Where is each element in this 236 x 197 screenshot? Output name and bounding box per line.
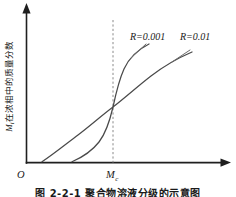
figure-container: R=0.001 R=0.01 O Mc Mi在浓相中的质量分数 图 2-2-1 … bbox=[0, 0, 236, 197]
figure-caption: 图 2-2-1 聚合物溶液分级的示意图 bbox=[0, 183, 236, 197]
plot-canvas: R=0.001 R=0.01 O Mc bbox=[0, 0, 236, 197]
x-tick-label-mc: Mc bbox=[105, 169, 119, 183]
origin-label: O bbox=[17, 169, 25, 180]
x-tick-subscript: c bbox=[115, 175, 119, 183]
curve-r-0-001 bbox=[72, 44, 149, 162]
x-axis-arrowhead bbox=[221, 158, 232, 166]
curve-r-0-01 bbox=[42, 52, 192, 162]
y-axis-arrowhead bbox=[22, 3, 30, 14]
figure-caption-text: 图 2-2-1 聚合物溶液分级的示意图 bbox=[35, 185, 201, 197]
series-label-r-0-001: R=0.001 bbox=[129, 31, 165, 42]
leader-line-r-0-01 bbox=[172, 50, 190, 62]
leader-line-r-0-001 bbox=[131, 44, 146, 58]
series-label-r-0-01: R=0.01 bbox=[179, 31, 210, 42]
